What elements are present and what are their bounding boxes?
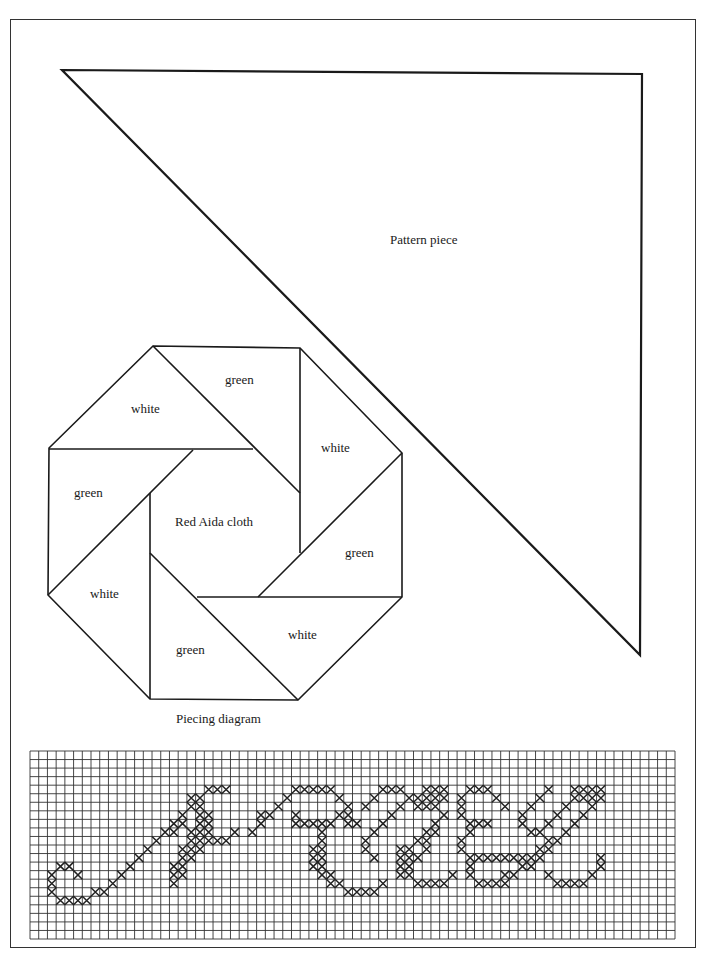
cross-stitch (440, 794, 449, 803)
cross-stitch (414, 879, 423, 888)
cross-stitch (309, 785, 318, 794)
cross-stitch (579, 794, 588, 803)
cross-stitch (326, 819, 335, 828)
cross-stitch (466, 819, 475, 828)
piecing-diagram-caption: Piecing diagram (176, 711, 261, 726)
piece-label: green (74, 485, 103, 500)
cross-stitch (274, 802, 283, 811)
cross-stitch (291, 819, 300, 828)
cross-stitch (169, 828, 178, 837)
cross-stitch (65, 896, 74, 905)
cross-stitch (553, 836, 562, 845)
cross-stitch (344, 819, 353, 828)
cross-stitch (178, 854, 187, 863)
cross-stitch (283, 794, 292, 803)
cross-stitch (422, 802, 431, 811)
cross-stitch (187, 854, 196, 863)
cross-stitch (466, 828, 475, 837)
cross-stitch (318, 854, 327, 863)
cross-stitch (475, 879, 484, 888)
cross-stitch (178, 819, 187, 828)
cross-stitch (431, 819, 440, 828)
cross-stitch (326, 785, 335, 794)
cross-stitch (518, 862, 527, 871)
cross-stitch (196, 794, 205, 803)
cross-stitch (74, 896, 83, 905)
cross-stitch (309, 819, 318, 828)
cross-stitch (536, 794, 545, 803)
cross-stitch (431, 828, 440, 837)
cross-stitch (326, 871, 335, 880)
cross-stitch (396, 854, 405, 863)
cross-stitch (492, 794, 501, 803)
cross-stitch (422, 785, 431, 794)
seam-line (153, 346, 300, 493)
cross-stitch (309, 854, 318, 863)
drawing: Pattern piece white green white green wh… (0, 0, 716, 966)
cross-stitch (457, 794, 466, 803)
cross-stitch (265, 811, 274, 820)
cross-stitch (440, 785, 449, 794)
cross-stitch (335, 879, 344, 888)
cross-stitch (152, 836, 161, 845)
cross-stitch (353, 819, 362, 828)
cross-stitch (414, 836, 423, 845)
cross-stitch (387, 811, 396, 820)
cross-stitch (204, 836, 213, 845)
cross-stitch (344, 888, 353, 897)
cross-stitch (518, 854, 527, 863)
cross-stitch (370, 854, 379, 863)
cross-stitch (422, 836, 431, 845)
cross-stitch (422, 845, 431, 854)
piece-label: green (345, 545, 374, 560)
cross-stitch (187, 828, 196, 837)
cross-stitch (291, 785, 300, 794)
cross-stitch (414, 802, 423, 811)
cross-stitch (47, 888, 56, 897)
piece-label: green (176, 642, 205, 657)
cross-stitch (291, 811, 300, 820)
cross-stitch (509, 854, 518, 863)
cross-stitch (518, 819, 527, 828)
cross-stitch (405, 854, 414, 863)
cross-stitch (483, 879, 492, 888)
cross-stitch (518, 811, 527, 820)
cross-stitch (414, 854, 423, 863)
cross-stitch (187, 836, 196, 845)
cross-stitch (318, 862, 327, 871)
cross-stitch (396, 802, 405, 811)
cross-stitch (335, 811, 344, 820)
cross-stitch (222, 836, 231, 845)
piece-label: green (225, 372, 254, 387)
cross-stitch (588, 785, 597, 794)
cross-stitch (187, 802, 196, 811)
cross-stitch (536, 845, 545, 854)
cross-stitch (318, 836, 327, 845)
cross-stitch (527, 802, 536, 811)
cross-stitch (318, 845, 327, 854)
cross-stitch (536, 854, 545, 863)
cross-stitch (562, 802, 571, 811)
cross-stitch (396, 862, 405, 871)
cross-stitch (300, 819, 309, 828)
cross-stitch (562, 879, 571, 888)
cross-stitch (196, 802, 205, 811)
cross-stitch (353, 888, 362, 897)
cross-stitch (501, 879, 510, 888)
cross-stitch (213, 836, 222, 845)
cross-stitch (405, 794, 414, 803)
cross-stitch (82, 896, 91, 905)
cross-stitch (361, 888, 370, 897)
cross-stitch (588, 794, 597, 803)
cross-stitch (579, 811, 588, 820)
cross-stitch (475, 854, 484, 863)
cross-stitch (544, 836, 553, 845)
cross-stitch (405, 845, 414, 854)
cross-stitch (56, 862, 65, 871)
cross-stitch (570, 819, 579, 828)
cross-stitch (344, 802, 353, 811)
cross-stitch (74, 871, 83, 880)
cross-stitch (309, 862, 318, 871)
cross-stitch (440, 811, 449, 820)
cross-stitch (100, 888, 109, 897)
